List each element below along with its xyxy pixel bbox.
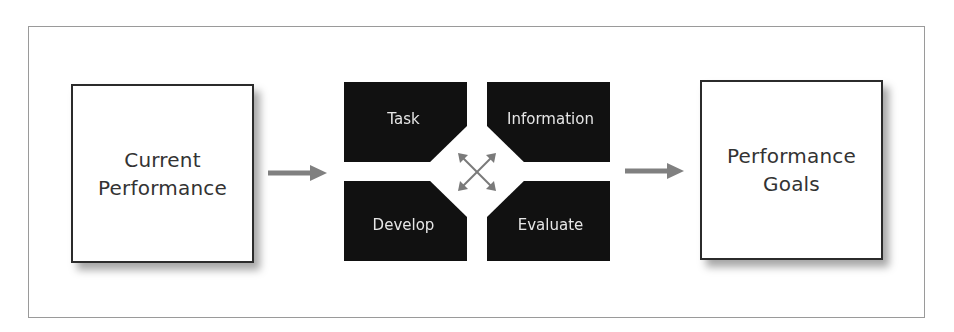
arrow-right-icon [623, 161, 687, 181]
current-performance-label: Current Performance [98, 146, 227, 202]
develop-label: Develop [373, 216, 435, 234]
performance-goals-box: Performance Goals [700, 80, 883, 260]
arrow-right-icon [266, 163, 330, 183]
performance-goals-label: Performance Goals [727, 142, 856, 198]
task-label: Task [387, 110, 419, 128]
information-label: Information [507, 110, 594, 128]
evaluate-label: Evaluate [518, 216, 584, 234]
current-performance-box: Current Performance [71, 84, 254, 263]
crossed-arrows-icon [455, 150, 499, 194]
